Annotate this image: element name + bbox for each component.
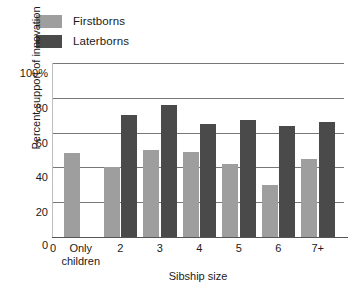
x-axis-line	[52, 237, 348, 238]
bar-group	[262, 63, 296, 237]
bar-group	[104, 63, 138, 237]
legend-item-firstborns: Firstborns	[36, 14, 129, 29]
bar-firstborns-5	[222, 164, 238, 237]
bar-group	[64, 63, 98, 237]
x-tick-7+: 7+	[289, 242, 347, 255]
bar-firstborns-2	[104, 167, 120, 237]
bar-laterborns-7+	[319, 122, 335, 237]
bar-firstborns-7+	[301, 159, 317, 237]
y-tick-100: 100%	[20, 67, 48, 79]
bar-group	[183, 63, 217, 237]
bar-firstborns-3	[143, 150, 159, 237]
chart-legend: Firstborns Laterborns	[36, 14, 129, 54]
bar-group	[143, 63, 177, 237]
y-tick-20: 20	[36, 206, 48, 218]
legend-label-firstborns: Firstborns	[73, 15, 125, 28]
bar-group	[301, 63, 335, 237]
bar-chart: Firstborns Laterborns Percent support of…	[0, 0, 358, 290]
legend-item-laterborns: Laterborns	[36, 34, 129, 49]
bar-firstborns-6	[262, 185, 278, 237]
x-axis-title: Sibship size	[52, 270, 344, 282]
bar-laterborns-6	[279, 126, 295, 237]
plot-area	[52, 63, 344, 237]
bar-laterborns-4	[200, 124, 216, 237]
y-tick-60: 60	[36, 137, 48, 149]
y-axis-tick-labels: 100% 80 60 40 20 0	[0, 63, 48, 243]
bar-group	[222, 63, 256, 237]
bar-firstborns-Only-children	[64, 153, 80, 237]
bar-firstborns-4	[183, 152, 199, 237]
bar-laterborns-5	[240, 120, 256, 237]
legend-label-laterborns: Laterborns	[73, 35, 129, 48]
y-axis-line	[52, 63, 53, 237]
bar-laterborns-2	[121, 115, 137, 237]
bar-laterborns-3	[161, 105, 177, 237]
y-tick-80: 80	[36, 102, 48, 114]
y-tick-40: 40	[36, 171, 48, 183]
